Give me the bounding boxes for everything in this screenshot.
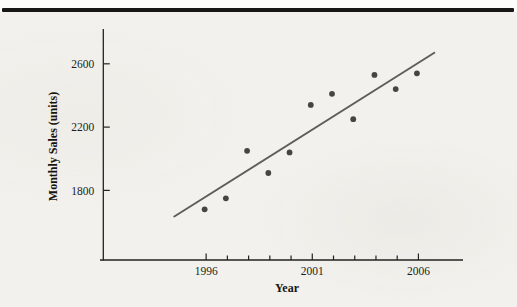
data-point — [244, 148, 250, 154]
y-tick-label: 2200 — [71, 121, 94, 133]
x-axis-title: Year — [275, 281, 300, 295]
trend-line — [174, 53, 434, 217]
data-point — [223, 195, 229, 201]
chart-dynamic: 180022002600199620012006 — [71, 29, 463, 277]
page-background: 180022002600199620012006 Monthly Sales (… — [0, 0, 517, 307]
sales-scatter-chart: 180022002600199620012006 Monthly Sales (… — [0, 0, 517, 307]
y-tick-label: 1800 — [71, 185, 94, 197]
x-tick-label: 1996 — [195, 265, 218, 277]
data-point — [329, 91, 335, 97]
data-point — [414, 70, 420, 76]
data-point — [308, 102, 314, 108]
x-tick-label: 2001 — [301, 265, 324, 277]
y-tick-label: 2600 — [71, 58, 94, 70]
x-tick-label: 2006 — [407, 265, 430, 277]
y-axis-title: Monthly Sales (units) — [46, 92, 60, 201]
data-point — [287, 150, 293, 156]
data-point — [202, 206, 208, 212]
data-point — [350, 116, 356, 122]
data-point — [393, 86, 399, 92]
data-point — [265, 170, 271, 176]
data-point — [372, 72, 378, 78]
